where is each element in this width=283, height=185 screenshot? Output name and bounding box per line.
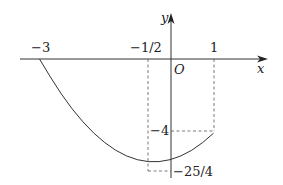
parabola-curve-line [40, 59, 214, 162]
origin-label: O [174, 62, 185, 77]
x-tick-neg-half: −1/2 [130, 40, 162, 55]
parabola-curve [40, 59, 172, 185]
y-axis-label: y [160, 10, 169, 25]
x-tick-one: 1 [210, 40, 218, 55]
x-tick-neg-three: −3 [31, 40, 50, 55]
x-axis-label: x [257, 61, 265, 76]
parabola-diagram: −3 −1/2 1 O x y −4 −25/4 [0, 0, 283, 185]
y-tick-neg-four: −4 [150, 123, 169, 138]
y-tick-neg-25-4: −25/4 [173, 164, 213, 179]
